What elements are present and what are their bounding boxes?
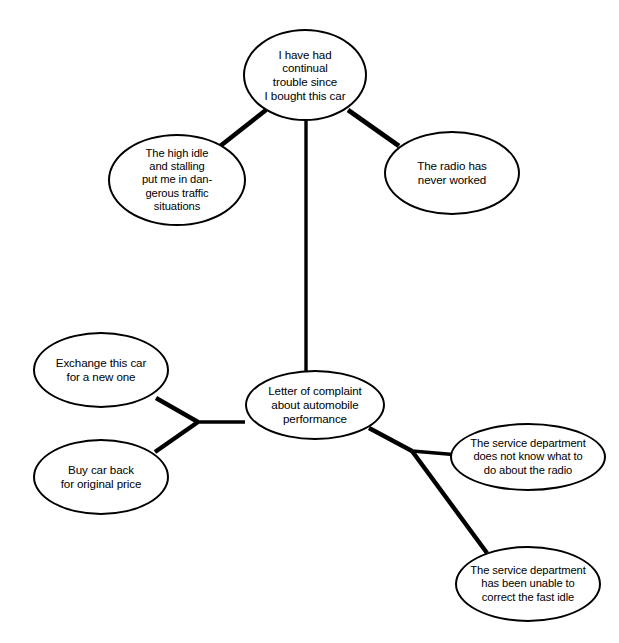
node-central-topic[interactable]: Letter of complaint about automobile per… [245,370,385,440]
node-label-continual-trouble: I have had continual trouble since I bou… [259,48,352,103]
node-service-dept-fast-idle[interactable]: The service department has been unable t… [455,546,601,622]
edge-trouble-radio [348,110,399,146]
node-label-exchange-car: Exchange this car for a new one [50,356,152,383]
node-label-service-dept-fast-idle: The service department has been unable t… [464,564,591,604]
node-label-buy-car-back: Buy car back for original price [55,463,148,490]
node-continual-trouble[interactable]: I have had continual trouble since I bou… [243,29,367,121]
node-label-high-idle-stalling: The high idle and stalling put me in dan… [136,147,218,213]
edge-center-right-junction [369,428,412,451]
edge-left-junction-buy-back [155,422,198,452]
node-label-service-dept-radio: The service department does not know wha… [464,437,591,477]
diagram-canvas: I have had continual trouble since I bou… [0,0,619,643]
node-radio-never-worked[interactable]: The radio has never worked [384,131,520,215]
node-exchange-car[interactable]: Exchange this car for a new one [33,332,169,408]
node-buy-car-back[interactable]: Buy car back for original price [33,439,169,515]
node-high-idle-stalling[interactable]: The high idle and stalling put me in dan… [108,134,246,226]
node-label-central-topic: Letter of complaint about automobile per… [262,384,367,425]
node-label-radio-never-worked: The radio has never worked [411,159,493,186]
edge-left-junction-exchange [156,398,198,422]
node-service-dept-radio[interactable]: The service department does not know wha… [450,423,606,491]
edge-trouble-idle-stalling [219,110,266,147]
